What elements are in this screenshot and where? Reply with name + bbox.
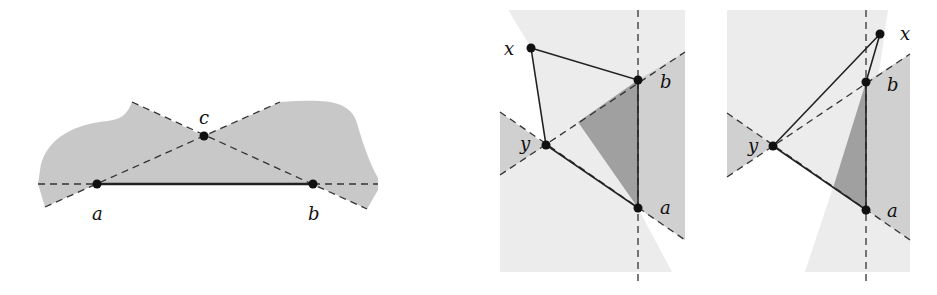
right-label-a: a [887,200,898,221]
middle-label-x: x [504,38,514,59]
right-label-b: b [887,74,899,95]
right-label-y: y [747,135,759,156]
middle-point-x [527,44,536,53]
left-figure: a b c [38,101,378,224]
right-label-x: x [900,23,910,44]
middle-point-y [542,141,551,150]
middle-label-y: y [519,133,531,154]
middle-figure: x b y a [500,10,685,282]
diagram-canvas: a b c x b y a x [0,0,937,295]
middle-label-a: a [660,197,671,218]
left-label-b: b [308,203,320,224]
left-label-a: a [92,203,103,224]
left-label-c: c [199,107,209,128]
right-point-b [862,78,871,87]
right-point-a [862,206,871,215]
right-figure: x b y a [727,10,910,282]
right-point-y [769,142,778,151]
left-point-a [93,180,102,189]
right-point-x [876,30,885,39]
middle-point-b [634,76,643,85]
left-point-c [200,132,209,141]
middle-label-b: b [660,71,672,92]
middle-point-a [634,204,643,213]
left-point-b [309,180,318,189]
